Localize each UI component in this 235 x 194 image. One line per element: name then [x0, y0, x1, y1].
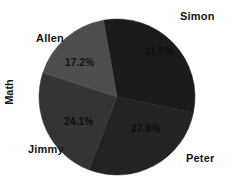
slice-percent-simon: 31.0%: [144, 46, 173, 57]
slice-percent-allen: 17.2%: [65, 57, 94, 68]
y-axis-label: Math: [3, 70, 15, 114]
slice-name-allen: Allen: [36, 32, 64, 44]
pie-chart-figure: Math Simon Peter Jimmy Allen 31.0% 27.6%…: [0, 0, 235, 194]
slice-name-peter: Peter: [186, 152, 215, 164]
pie-chart-canvas: [0, 0, 235, 194]
slice-percent-peter: 27.6%: [131, 123, 160, 134]
slice-name-simon: Simon: [180, 10, 215, 22]
slice-percent-jimmy: 24.1%: [64, 116, 93, 127]
slice-name-jimmy: Jimmy: [28, 143, 64, 155]
